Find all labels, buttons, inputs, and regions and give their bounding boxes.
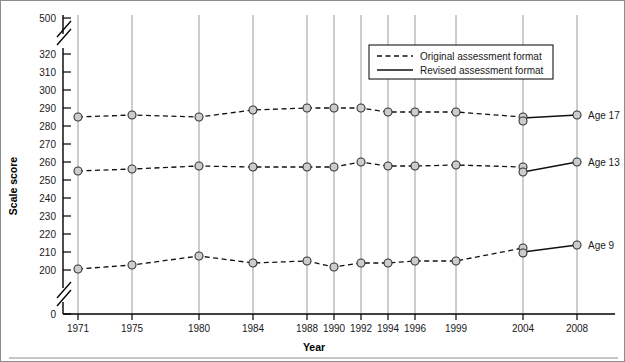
data-point[interactable] [195,113,203,121]
y-axis [57,15,71,314]
data-point[interactable] [519,117,527,125]
series-age-9-markers [74,241,581,273]
data-point[interactable] [452,108,460,116]
x-tick-1988: 1988 [296,323,319,334]
x-tick-1971: 1971 [67,323,90,334]
axis-break-upper-2 [57,21,71,37]
y-tick-500: 500 [39,13,56,24]
data-point[interactable] [128,261,136,269]
x-tick-1980: 1980 [188,323,211,334]
data-point[interactable] [303,163,311,171]
y-tick-260: 260 [39,157,56,168]
x-tick-labels: 1971 1975 1980 1984 1988 1990 1992 1994 … [67,323,589,334]
y-tick-230: 230 [39,211,56,222]
y-tick-250: 250 [39,175,56,186]
y-tick-labels: 500 320 310 300 290 280 270 260 250 240 … [39,13,56,320]
data-point[interactable] [573,241,581,249]
axis-break-lower-2 [57,282,71,298]
data-point[interactable] [249,163,257,171]
data-point[interactable] [195,162,203,170]
series-age-13: Age 13 [74,157,620,176]
chart-legend: Original assessment format Revised asses… [369,45,553,79]
series-label-age-13: Age 13 [588,157,620,168]
x-tick-1990: 1990 [323,323,346,334]
data-point[interactable] [452,161,460,169]
axis-break-lower-1 [57,290,71,306]
data-point[interactable] [357,259,365,267]
data-point[interactable] [357,104,365,112]
data-point[interactable] [74,113,82,121]
series-age-9: Age 9 [74,240,615,273]
series-age-17: Age 17 [74,104,620,125]
x-tick-1994: 1994 [377,323,400,334]
data-point[interactable] [357,158,365,166]
x-tick-1975: 1975 [121,323,144,334]
legend-label-revised: Revised assessment format [420,65,544,76]
x-tick-1996: 1996 [404,323,427,334]
data-point[interactable] [573,111,581,119]
data-point[interactable] [411,257,419,265]
data-point[interactable] [573,158,581,166]
data-point[interactable] [411,162,419,170]
figure-frame: 500 320 310 300 290 280 270 260 250 240 … [0,0,625,362]
data-point[interactable] [411,108,419,116]
x-axis-title: Year [303,341,325,353]
data-point[interactable] [303,104,311,112]
y-tick-280: 280 [39,121,56,132]
x-tick-2004: 2004 [512,323,535,334]
data-point[interactable] [384,108,392,116]
data-point[interactable] [519,168,527,176]
data-point[interactable] [384,259,392,267]
series-label-age-9: Age 9 [588,240,615,251]
y-tick-240: 240 [39,193,56,204]
data-point[interactable] [452,257,460,265]
axis-break-upper-1 [57,29,71,45]
data-point[interactable] [195,252,203,260]
chart-svg: 500 320 310 300 290 280 270 260 250 240 … [1,1,625,362]
y-tick-200: 200 [39,265,56,276]
y-tick-0: 0 [50,309,56,320]
data-point[interactable] [330,104,338,112]
data-point[interactable] [128,165,136,173]
y-tick-300: 300 [39,85,56,96]
x-tick-1992: 1992 [350,323,373,334]
data-point[interactable] [303,257,311,265]
x-axis [63,314,615,320]
series-age-17-revised-line [523,115,577,118]
series-age-13-revised-line [523,162,577,172]
y-tick-290: 290 [39,103,56,114]
data-point[interactable] [249,259,257,267]
y-tick-270: 270 [39,139,56,150]
legend-label-original: Original assessment format [420,51,542,62]
y-axis-title: Scale score [7,157,19,216]
x-tick-1984: 1984 [242,323,265,334]
data-point[interactable] [74,265,82,273]
series-age-17-markers [74,104,581,125]
x-tick-1999: 1999 [445,323,468,334]
y-tick-320: 320 [39,49,56,60]
y-tick-310: 310 [39,67,56,78]
data-point[interactable] [74,167,82,175]
y-tick-210: 210 [39,247,56,258]
data-point[interactable] [330,263,338,271]
series-age-9-revised-line [523,245,577,252]
data-point[interactable] [330,163,338,171]
data-point[interactable] [519,249,527,257]
data-point[interactable] [249,106,257,114]
y-tick-220: 220 [39,229,56,240]
data-point[interactable] [384,162,392,170]
data-point[interactable] [128,111,136,119]
chart-figure: 500 320 310 300 290 280 270 260 250 240 … [1,1,625,362]
series-label-age-17: Age 17 [588,110,620,121]
x-tick-2008: 2008 [566,323,589,334]
